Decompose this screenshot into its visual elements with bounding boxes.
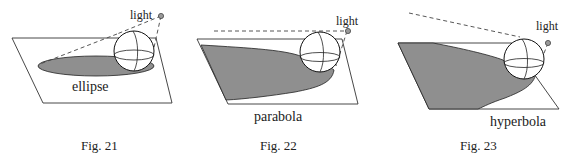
figure-caption: Fig. 22: [260, 138, 297, 153]
conic-label-parabola: parabola: [254, 109, 303, 124]
light-ray-lower: [153, 16, 161, 52]
sphere: [300, 32, 340, 72]
light-label: light: [536, 19, 559, 33]
sphere: [504, 39, 544, 79]
conic-label-ellipse: ellipse: [72, 79, 109, 94]
light-source-icon: [545, 40, 550, 45]
figure-caption: Fig. 21: [81, 138, 118, 153]
light-source-icon: [158, 13, 163, 18]
figure-caption: Fig. 23: [460, 138, 497, 153]
figure-21: light ellipse Fig. 21: [12, 8, 172, 153]
figure-23: light hyperbola Fig. 23: [398, 13, 559, 153]
light-ray-upper: [409, 13, 520, 37]
light-label: light: [130, 8, 153, 22]
light-source-icon: [345, 28, 350, 33]
light-label: light: [336, 14, 359, 28]
conic-label-hyperbola: hyperbola: [490, 114, 547, 129]
conic-shadows-diagram: light ellipse Fig. 21 light parabola Fig…: [0, 0, 572, 156]
figure-22: light parabola Fig. 22: [197, 14, 359, 153]
sphere: [114, 31, 154, 71]
